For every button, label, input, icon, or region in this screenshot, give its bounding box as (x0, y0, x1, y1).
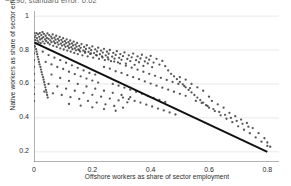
data-point (101, 56, 103, 58)
data-point (77, 67, 79, 69)
data-point (185, 79, 187, 81)
data-point (62, 68, 64, 70)
data-point (61, 94, 63, 96)
data-point (94, 48, 96, 50)
data-point (144, 80, 146, 82)
data-point (167, 89, 169, 91)
data-point (115, 110, 117, 112)
data-point (96, 50, 98, 52)
data-point (56, 46, 58, 48)
data-point (81, 54, 83, 56)
data-point (157, 107, 159, 109)
data-point (71, 42, 73, 44)
data-point (74, 73, 76, 75)
chart-root: −0.90, standard error: 0.02 Native worke… (0, 0, 291, 186)
data-point (85, 77, 87, 79)
data-point (117, 61, 119, 63)
data-point (107, 58, 109, 60)
data-point (148, 73, 150, 75)
data-point (41, 73, 43, 75)
data-point (241, 123, 243, 125)
data-point (214, 110, 216, 112)
data-point (220, 114, 222, 116)
data-point (144, 60, 146, 62)
data-point (42, 51, 44, 53)
data-point (91, 79, 93, 81)
data-point (132, 52, 134, 54)
data-point (161, 87, 163, 89)
data-point (103, 108, 105, 110)
data-point (141, 54, 143, 56)
x-axis-title: Offshore workers as share of sector empl… (34, 173, 280, 180)
data-point (35, 51, 37, 53)
data-point (103, 48, 105, 50)
data-point (97, 81, 99, 83)
data-point (123, 87, 125, 89)
data-point (69, 39, 71, 41)
data-point (40, 68, 42, 70)
data-point (247, 126, 249, 128)
data-point (59, 77, 61, 79)
data-point (113, 58, 115, 60)
data-point (179, 76, 181, 78)
data-point (173, 91, 175, 93)
data-point (47, 96, 49, 98)
data-point (84, 51, 86, 53)
scatter-plot-svg (34, 11, 279, 162)
data-point (196, 96, 198, 98)
data-point (246, 122, 248, 124)
data-point (168, 111, 170, 113)
data-point (47, 42, 49, 44)
data-point (196, 86, 198, 88)
data-point (88, 72, 90, 74)
data-point (189, 87, 191, 89)
data-point (45, 91, 47, 93)
data-point (171, 81, 173, 83)
data-point (195, 100, 197, 102)
data-point (142, 71, 144, 73)
data-point (115, 70, 117, 72)
data-point (263, 137, 265, 139)
data-point (94, 88, 96, 90)
y-tick-label: 0.4 (7, 113, 29, 120)
data-point (52, 33, 54, 35)
data-point (145, 57, 147, 59)
data-point (257, 132, 259, 134)
data-point (63, 48, 65, 50)
data-point (54, 42, 56, 44)
data-point (87, 55, 89, 57)
data-point (224, 114, 226, 116)
data-point (120, 94, 122, 96)
x-tick-label: 0 (24, 166, 44, 173)
data-point (56, 41, 58, 43)
data-point (50, 41, 52, 43)
data-point (61, 41, 63, 43)
data-point (129, 60, 131, 62)
data-point (133, 100, 135, 102)
data-point (112, 92, 114, 94)
x-tick-label: 0.8 (257, 166, 277, 173)
data-point (44, 86, 46, 88)
data-point (166, 79, 168, 81)
data-point (36, 53, 38, 55)
data-point (228, 112, 230, 114)
data-point (51, 37, 53, 39)
data-point (139, 101, 141, 103)
data-point (105, 54, 107, 56)
data-point (92, 57, 94, 59)
data-point (163, 109, 165, 111)
data-point (174, 113, 176, 115)
data-point (45, 40, 47, 42)
x-tick-label: 0.6 (199, 166, 219, 173)
data-point (109, 97, 111, 99)
data-point (72, 44, 74, 46)
data-point (91, 94, 93, 96)
data-point (115, 54, 117, 56)
data-point (91, 106, 93, 108)
data-point (148, 59, 150, 61)
data-point (47, 38, 49, 40)
data-points (34, 31, 271, 148)
data-point (187, 89, 189, 91)
data-point (39, 32, 41, 34)
data-point (42, 40, 44, 42)
